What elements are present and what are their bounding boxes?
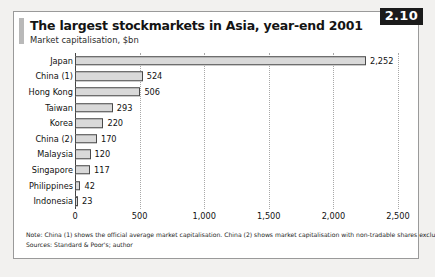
bar: [75, 72, 143, 82]
note-text: Note: China (1) shows the official avera…: [26, 230, 412, 240]
bar-value-label: 42: [84, 181, 94, 191]
x-tick-label: 1,000: [192, 211, 215, 221]
x-tick-label: 1,500: [257, 211, 280, 221]
chart-plot-area: Japan2,252China (1)524Hong Kong506Taiwan…: [14, 53, 420, 213]
bar: [75, 196, 78, 206]
category-label: Singapore: [32, 165, 73, 175]
bar-value-label: 293: [117, 103, 133, 113]
bar-value-label: 117: [94, 165, 110, 175]
category-label: Hong Kong: [28, 87, 73, 97]
bar: [75, 56, 366, 66]
bar-value-label: 170: [101, 134, 117, 144]
bar-row: Philippines42: [14, 178, 420, 194]
sources-text: Sources: Standard & Poor's; author: [26, 240, 412, 250]
page-title: The largest stockmarkets in Asia, year-e…: [30, 18, 363, 33]
category-label: Philippines: [29, 181, 73, 191]
bar-value-label: 120: [95, 149, 111, 159]
bar-row: Taiwan293: [14, 100, 420, 116]
bar-value-label: 2,252: [370, 56, 393, 66]
bar-row: Japan2,252: [14, 53, 420, 69]
title-accent-bar: [19, 18, 24, 44]
bar-value-label: 524: [147, 71, 163, 81]
category-label: Japan: [50, 56, 73, 66]
x-axis-tick-labels: 05001,0001,5002,0002,500: [14, 211, 420, 225]
bar: [75, 181, 80, 191]
bar-row: Hong Kong506: [14, 84, 420, 100]
x-tick-label: 500: [132, 211, 148, 221]
bar-row: China (1)524: [14, 69, 420, 85]
bar-value-label: 220: [107, 118, 123, 128]
bar: [75, 165, 90, 175]
x-tick-label: 2,000: [322, 211, 345, 221]
bar: [75, 103, 113, 113]
figure-number-badge: 2.10: [380, 8, 423, 25]
bar: [75, 134, 97, 144]
bar: [75, 87, 140, 97]
x-tick-label: 0: [72, 211, 77, 221]
category-label: Malaysia: [37, 149, 73, 159]
bar: [75, 150, 91, 160]
bar-row: Korea220: [14, 115, 420, 131]
bar-row: Malaysia120: [14, 147, 420, 163]
category-label: Taiwan: [45, 103, 73, 113]
x-tick-label: 2,500: [386, 211, 409, 221]
bar-row: China (2)170: [14, 131, 420, 147]
chart-notes: Note: China (1) shows the official avera…: [26, 230, 412, 250]
bar-row: Indonesia23: [14, 193, 420, 209]
category-label: Korea: [50, 118, 73, 128]
category-label: China (2): [35, 134, 73, 144]
chart-subtitle: Market capitalisation, $bn: [30, 35, 139, 45]
bar-value-label: 23: [82, 196, 92, 206]
category-label: Indonesia: [33, 196, 73, 206]
bar: [75, 118, 103, 128]
chart-card: 2.10 The largest stockmarkets in Asia, y…: [13, 11, 419, 259]
category-label: China (1): [35, 71, 73, 81]
bar-value-label: 506: [144, 87, 160, 97]
bar-row: Singapore117: [14, 162, 420, 178]
